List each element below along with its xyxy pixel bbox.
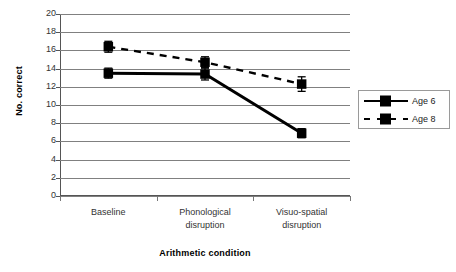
data-point-marker <box>104 68 114 78</box>
x-tick-label-line: disruption <box>150 219 260 232</box>
y-tick-label: 2 <box>34 172 56 182</box>
data-point-marker <box>200 57 210 66</box>
y-tick-label: 8 <box>34 117 56 127</box>
x-tick-label-line: Visuo-spatial <box>247 206 357 219</box>
y-tick-label: 12 <box>34 81 56 91</box>
chart-legend: Age 6 Age 8 <box>358 90 450 129</box>
y-tick-label: 16 <box>34 44 56 54</box>
x-tick-label: Baseline <box>53 206 163 219</box>
x-axis-title: Arithmetic condition <box>60 248 350 258</box>
x-tick-mark <box>253 196 254 201</box>
x-tick-label-line: disruption <box>247 219 357 232</box>
legend-item-age-8: Age 8 <box>359 110 451 128</box>
y-axis-title: No. correct <box>14 46 24 136</box>
legend-key-dashed-square-icon <box>362 110 410 128</box>
x-tick-mark <box>157 196 158 201</box>
series-line-age-6 <box>108 73 301 133</box>
y-tick-label: 0 <box>34 190 56 200</box>
chart-figure: No. correct 20181614121086420 BaselinePh… <box>0 0 456 272</box>
data-point-marker <box>297 79 307 89</box>
gridline <box>60 196 350 197</box>
y-tick-label: 4 <box>34 154 56 164</box>
y-tick-label: 18 <box>34 26 56 36</box>
y-tick-label: 14 <box>34 63 56 73</box>
legend-label-age-6: Age 6 <box>412 96 436 106</box>
x-tick-label-line: Baseline <box>53 206 163 219</box>
y-axis-tick-labels: 20181614121086420 <box>30 14 56 196</box>
x-tick-label-line: Phonological <box>150 206 260 219</box>
x-tick-mark <box>60 196 61 201</box>
legend-label-age-8: Age 8 <box>412 114 436 124</box>
series-data-layer <box>60 14 350 196</box>
data-point-marker <box>104 42 114 52</box>
x-tick-label: Visuo-spatialdisruption <box>247 206 357 232</box>
legend-key-solid-square-icon <box>362 92 410 110</box>
series-group <box>104 41 307 138</box>
x-tick-mark <box>350 196 351 201</box>
data-point-marker <box>200 69 210 79</box>
series-svg <box>60 14 350 196</box>
y-tick-label: 6 <box>34 135 56 145</box>
legend-item-age-6: Age 6 <box>359 92 451 110</box>
y-tick-label: 10 <box>34 99 56 109</box>
x-tick-label: Phonologicaldisruption <box>150 206 260 232</box>
y-tick-label: 20 <box>34 8 56 18</box>
data-point-marker <box>297 128 307 138</box>
